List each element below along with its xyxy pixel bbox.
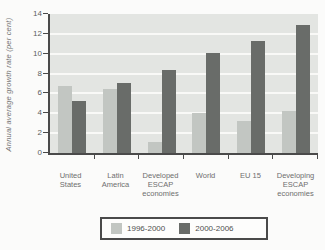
y-tick-6: [43, 92, 48, 93]
y-tick-label-4: 4: [23, 108, 42, 118]
bar-2000-2006-category-5: [296, 25, 310, 153]
gridline-2: [50, 132, 318, 134]
bar-2000-2006-category-2: [162, 70, 176, 153]
x-tick-4: [228, 155, 229, 159]
x-label-1: Latin America: [93, 171, 138, 198]
x-tick-2: [138, 155, 139, 159]
x-tick-1: [94, 155, 95, 159]
y-tick-2: [43, 132, 48, 133]
y-axis-label: Annual average growth rate (per cent): [4, 15, 15, 155]
gridline-12: [50, 33, 318, 35]
y-tick-8: [43, 73, 48, 74]
legend-item-2000-2006: 2000-2006: [179, 223, 233, 234]
y-tick-4: [43, 112, 48, 113]
bar-2000-2006-category-4: [251, 41, 265, 153]
export-growth-bar-chart: Annual average growth rate (per cent) 02…: [0, 0, 325, 250]
bar-2000-2006-category-3: [206, 53, 220, 153]
x-tick-3: [183, 155, 184, 159]
gridline-8: [50, 73, 318, 75]
bar-1996-2000-category-3: [192, 113, 206, 153]
bar-1996-2000-category-0: [58, 86, 72, 154]
plot-area: 02468101214: [48, 14, 318, 155]
y-tick-label-14: 14: [23, 9, 42, 19]
y-tick-label-8: 8: [23, 69, 42, 79]
x-tick-6: [317, 155, 318, 159]
bar-1996-2000-category-4: [237, 121, 251, 153]
y-tick-12: [43, 33, 48, 34]
y-tick-label-6: 6: [23, 88, 42, 98]
legend-label-1996-2000: 1996-2000: [127, 224, 165, 233]
x-label-4: EU 15: [228, 171, 273, 198]
legend-swatch-1996-2000-icon: [111, 223, 122, 234]
y-tick-label-10: 10: [23, 49, 42, 59]
x-tick-5: [272, 155, 273, 159]
legend-swatch-2000-2006-icon: [179, 223, 190, 234]
x-label-5: Developing ESCAP economies: [273, 171, 318, 198]
legend-label-2000-2006: 2000-2006: [195, 224, 233, 233]
bar-2000-2006-category-0: [72, 101, 86, 153]
bar-1996-2000-category-1: [103, 89, 117, 153]
y-tick-label-12: 12: [23, 29, 42, 39]
gridline-6: [50, 92, 318, 94]
y-tick-label-0: 0: [23, 148, 42, 158]
x-label-0: United States: [48, 171, 93, 198]
legend-item-1996-2000: 1996-2000: [111, 223, 165, 234]
x-label-3: World: [183, 171, 228, 198]
x-label-2: Developed ESCAP economies: [138, 171, 183, 198]
gridline-4: [50, 112, 318, 114]
y-tick-label-2: 2: [23, 128, 42, 138]
bar-1996-2000-category-2: [148, 142, 162, 153]
y-tick-0: [43, 152, 48, 153]
bar-2000-2006-category-1: [117, 83, 131, 153]
x-axis-labels: United StatesLatin AmericaDeveloped ESCA…: [48, 171, 318, 198]
gridline-10: [50, 53, 318, 55]
y-tick-14: [43, 13, 48, 14]
y-tick-10: [43, 53, 48, 54]
legend: 1996-2000 2000-2006: [100, 217, 268, 240]
bar-1996-2000-category-5: [282, 111, 296, 153]
